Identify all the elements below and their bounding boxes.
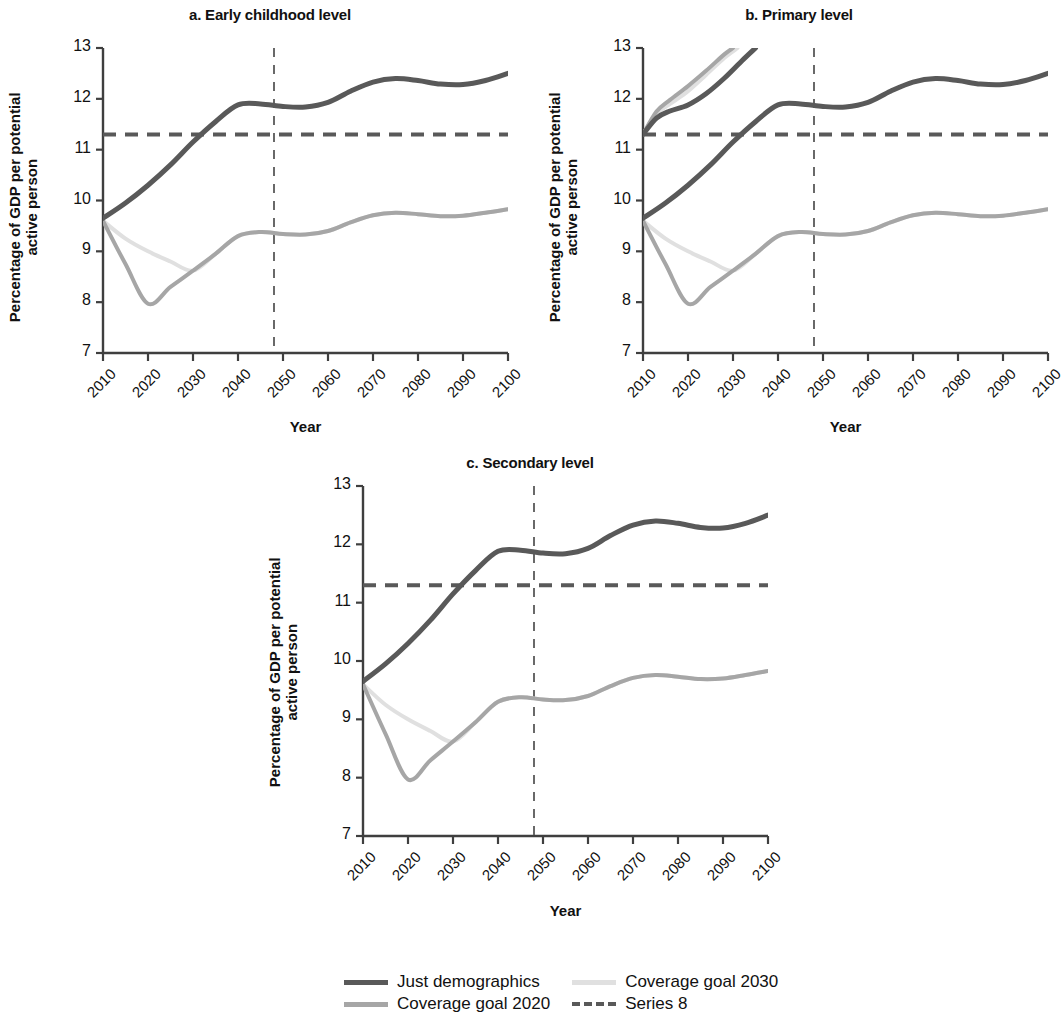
panel-b-title: b. Primary level: [540, 6, 1058, 23]
y-tick-label-8: 8: [311, 767, 351, 785]
y-tick-label-8: 8: [591, 291, 631, 309]
x-tick-label-2050: 2050: [793, 365, 839, 411]
panel-c-title: c. Secondary level: [260, 454, 800, 471]
legend-swatch-just-demographics: [344, 980, 388, 985]
x-tick-label-2080: 2080: [388, 365, 434, 411]
y-tick-label-10: 10: [51, 190, 91, 208]
x-tick-label-2080: 2080: [928, 365, 974, 411]
y-tick-label-12: 12: [591, 88, 631, 106]
y-tick-label-11: 11: [51, 139, 91, 157]
y-tick-label-7: 7: [51, 342, 91, 360]
x-tick-label-2100: 2100: [1018, 365, 1064, 411]
panel-a-xlabel: Year: [103, 418, 508, 435]
y-tick-label-13: 13: [591, 37, 631, 55]
y-tick-label-9: 9: [51, 240, 91, 258]
legend-label-coverage-goal-2030: Coverage goal 2030: [625, 972, 778, 992]
series-line-coverage-goal-2030: [363, 671, 768, 742]
x-tick-label-2090: 2090: [973, 365, 1019, 411]
plot-canvas-b: [643, 48, 1050, 355]
x-tick-label-2020: 2020: [118, 365, 164, 411]
legend-label-coverage-goal-2020: Coverage goal 2020: [397, 994, 550, 1014]
panel-b-xlabel: Year: [643, 418, 1048, 435]
panel-b-plot: 7891011121320102020203020402050206020702…: [643, 48, 1048, 353]
x-tick-label-2040: 2040: [468, 848, 514, 894]
x-tick-label-2020: 2020: [378, 848, 424, 894]
y-tick-label-12: 12: [311, 533, 351, 551]
y-tick-label-13: 13: [51, 37, 91, 55]
series-line-coverage-goal-2030: [643, 209, 1048, 271]
legend-label-series-8: Series 8: [625, 994, 687, 1014]
panel-c-ylabel: Percentage of GDP per potential active p…: [266, 557, 301, 787]
series-line-just-demographics: [363, 515, 768, 681]
panel-a-ylabel-line2: active person: [23, 159, 40, 256]
legend-swatch-coverage-goal-2030: [572, 980, 616, 985]
panel-c-xlabel: Year: [363, 902, 768, 919]
chart-legend: Just demographics Coverage goal 2030 Cov…: [344, 972, 778, 1014]
legend-swatch-coverage-goal-2020: [344, 1002, 388, 1007]
x-tick-label-2030: 2030: [423, 848, 469, 894]
legend-label-just-demographics: Just demographics: [397, 972, 540, 992]
plot-canvas-a: [103, 48, 510, 355]
y-tick-label-9: 9: [591, 240, 631, 258]
panel-b: b. Primary level Percentage of GDP per p…: [540, 0, 1058, 450]
y-tick-label-10: 10: [591, 190, 631, 208]
x-tick-label-2040: 2040: [208, 365, 254, 411]
panel-b-ylabel: Percentage of GDP per potential active p…: [546, 92, 581, 322]
x-tick-label-2010: 2010: [73, 365, 119, 411]
legend-item-just-demographics: Just demographics: [344, 972, 550, 992]
panel-b-ylabel-line2: active person: [563, 159, 580, 256]
panel-a: a. Early childhood level Percentage of G…: [0, 0, 540, 450]
x-tick-label-2020: 2020: [658, 365, 704, 411]
axis-spines: [363, 486, 768, 836]
x-tick-label-2090: 2090: [693, 848, 739, 894]
axis-spines: [103, 48, 508, 353]
y-tick-label-8: 8: [51, 291, 91, 309]
y-tick-label-11: 11: [591, 139, 631, 157]
x-tick-label-2070: 2070: [883, 365, 929, 411]
y-tick-label-11: 11: [311, 592, 351, 610]
x-tick-label-2010: 2010: [333, 848, 379, 894]
x-tick-label-2090: 2090: [433, 365, 479, 411]
y-tick-label-13: 13: [311, 475, 351, 493]
x-tick-label-2060: 2060: [838, 365, 884, 411]
panel-c-plot: 7891011121320102020203020402050206020702…: [363, 486, 768, 836]
series-line-coverage-goal-2030: [103, 209, 508, 271]
x-tick-label-2070: 2070: [343, 365, 389, 411]
legend-swatch-series-8: [572, 1002, 616, 1006]
x-tick-label-2060: 2060: [558, 848, 604, 894]
x-tick-label-2050: 2050: [253, 365, 299, 411]
panel-a-ylabel-line1: Percentage of GDP per potential: [6, 92, 23, 322]
panel-a-plot: 7891011121320102020203020402050206020702…: [103, 48, 508, 353]
panel-c-ylabel-line2: active person: [283, 624, 300, 721]
x-tick-label-2100: 2100: [478, 365, 524, 411]
y-tick-label-10: 10: [311, 650, 351, 668]
panel-a-title: a. Early childhood level: [0, 6, 540, 23]
legend-item-coverage-goal-2020: Coverage goal 2020: [344, 994, 550, 1014]
x-tick-label-2030: 2030: [163, 365, 209, 411]
y-tick-label-7: 7: [591, 342, 631, 360]
x-tick-label-2040: 2040: [748, 365, 794, 411]
legend-item-coverage-goal-2030: Coverage goal 2030: [572, 972, 778, 992]
series-line-just-demographics-upper-branch: [643, 48, 756, 134]
y-tick-label-7: 7: [311, 825, 351, 843]
x-tick-label-2100: 2100: [738, 848, 784, 894]
series-line-just-demographics: [103, 73, 508, 218]
x-tick-label-2010: 2010: [613, 365, 659, 411]
x-tick-label-2070: 2070: [603, 848, 649, 894]
x-tick-label-2060: 2060: [298, 365, 344, 411]
panel-a-ylabel: Percentage of GDP per potential active p…: [6, 92, 41, 322]
series-line-coverage-goal-2030-upper-branch: [643, 48, 738, 134]
panel-b-ylabel-line1: Percentage of GDP per potential: [546, 92, 563, 322]
panel-c: c. Secondary level Percentage of GDP per…: [260, 450, 800, 950]
x-tick-label-2030: 2030: [703, 365, 749, 411]
plot-canvas-c: [363, 486, 770, 838]
legend-item-series-8: Series 8: [572, 994, 778, 1014]
x-tick-label-2050: 2050: [513, 848, 559, 894]
y-tick-label-12: 12: [51, 88, 91, 106]
x-tick-label-2080: 2080: [648, 848, 694, 894]
panel-c-ylabel-line1: Percentage of GDP per potential: [266, 557, 283, 787]
y-tick-label-9: 9: [311, 708, 351, 726]
